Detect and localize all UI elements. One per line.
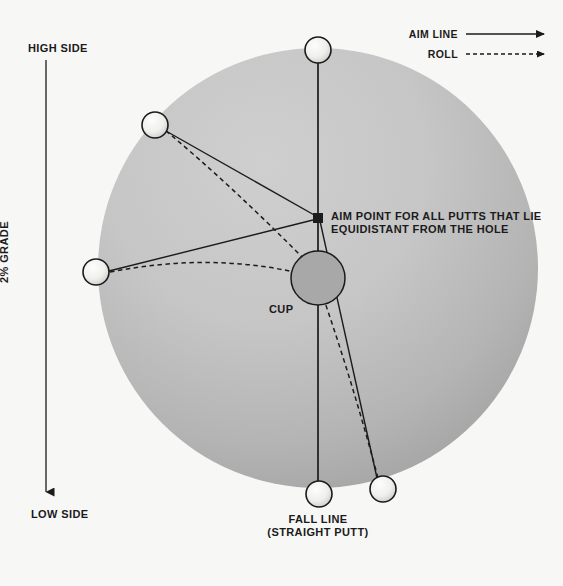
label-fall-line-line2: (STRAIGHT PUTT) bbox=[253, 526, 383, 539]
legend-item-aim-line: AIM LINE bbox=[392, 24, 552, 44]
legend-item-roll: ROLL bbox=[392, 44, 552, 64]
ball-top bbox=[305, 37, 331, 63]
cup bbox=[291, 251, 345, 305]
putting-diagram-canvas: AIM LINE ROLL HIGH bbox=[0, 0, 563, 586]
label-fall-line-line1: FALL LINE bbox=[253, 513, 383, 526]
legend: AIM LINE ROLL bbox=[392, 24, 552, 64]
ball-upper-left bbox=[142, 112, 168, 138]
ball-bottom bbox=[306, 481, 332, 507]
label-cup: CUP bbox=[269, 303, 293, 316]
legend-label-aim-line: AIM LINE bbox=[409, 28, 458, 40]
label-fall-line: FALL LINE (STRAIGHT PUTT) bbox=[253, 513, 383, 540]
legend-label-roll: ROLL bbox=[428, 48, 458, 60]
label-high-side: HIGH SIDE bbox=[28, 42, 88, 55]
label-grade-percent: 2% GRADE bbox=[0, 221, 11, 283]
label-aim-point: AIM POINT FOR ALL PUTTS THAT LIE EQUIDIS… bbox=[331, 210, 542, 237]
diagram-svg bbox=[0, 0, 563, 586]
label-low-side: LOW SIDE bbox=[31, 508, 89, 521]
ball-bottom-right bbox=[370, 476, 396, 502]
roll-swatch-icon bbox=[466, 48, 552, 60]
label-aim-point-line2: EQUIDISTANT FROM THE HOLE bbox=[331, 223, 542, 236]
aim-line-swatch-icon bbox=[466, 28, 552, 40]
ball-left bbox=[83, 259, 109, 285]
aim-point-marker bbox=[313, 213, 323, 223]
label-aim-point-line1: AIM POINT FOR ALL PUTTS THAT LIE bbox=[331, 210, 542, 223]
